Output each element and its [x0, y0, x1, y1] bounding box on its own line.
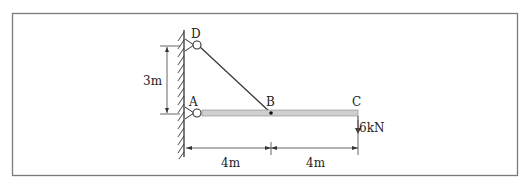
node-label-a: A — [188, 95, 198, 109]
cable-db — [199, 46, 271, 113]
joint-b — [269, 111, 273, 115]
beam-ac — [202, 110, 358, 116]
dimension-horizontal — [186, 120, 358, 155]
dimension-label-3m: 3m — [143, 74, 163, 88]
fixed-wall — [178, 30, 184, 159]
dimension-label-ab: 4m — [221, 156, 241, 170]
node-label-c: C — [352, 95, 361, 109]
beam-diagram: D A B C 6kN 3m 4m 4m — [0, 0, 525, 184]
node-label-d: D — [191, 27, 201, 41]
dimension-vertical — [160, 46, 180, 114]
load-label: 6kN — [359, 121, 384, 135]
figure-frame — [13, 14, 518, 176]
node-label-b: B — [266, 95, 275, 109]
dimension-label-bc: 4m — [306, 156, 326, 170]
